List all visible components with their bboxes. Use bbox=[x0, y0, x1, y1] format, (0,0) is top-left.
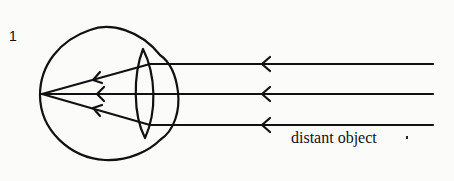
figure-number: 1 bbox=[9, 28, 17, 44]
distant-object-label: distant object bbox=[291, 129, 377, 147]
eye-diagram: 1 distant object bbox=[0, 0, 454, 181]
print-speck bbox=[406, 136, 408, 139]
eye-optics-drawing bbox=[0, 0, 454, 181]
